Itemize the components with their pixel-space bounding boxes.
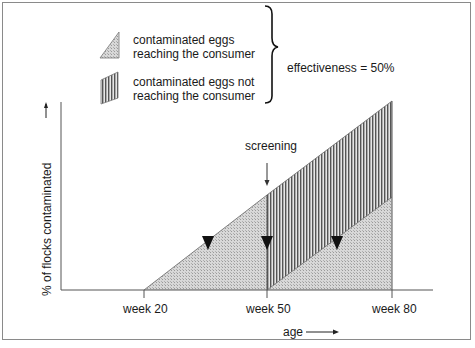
brace-icon [265, 6, 278, 103]
legend-item-1-line1: contaminated eggs [133, 33, 234, 47]
y-label-arrow-icon [44, 102, 48, 108]
legend-item-1-line2: reaching the consumer [133, 47, 255, 61]
legend-item-2-line2: reaching the consumer [133, 89, 255, 103]
legend-swatch-hatch [101, 72, 118, 104]
legend-item-2-line1: contaminated eggs not [133, 75, 254, 89]
x-tick-label-week-80: week 80 [372, 302, 417, 316]
x-axis-label: age [283, 325, 303, 339]
screening-arrow-icon [265, 180, 270, 186]
effectiveness-label: effectiveness = 50% [287, 61, 395, 75]
x-tick-label-week-50: week 50 [246, 302, 291, 316]
y-axis-label: % of flocks contaminated [40, 163, 54, 296]
legend-swatch-dotted [100, 32, 119, 58]
screening-label: screening [245, 139, 297, 153]
x-label-arrow-icon [333, 330, 339, 335]
x-tick-label-week-20: week 20 [123, 302, 168, 316]
